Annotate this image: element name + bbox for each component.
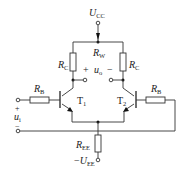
circuit-diagram: UCC RW RC RC + uo − T1 T2 RB + ui — [0, 0, 187, 176]
rb-right-resistor — [146, 97, 165, 103]
output-plus: + — [83, 64, 89, 75]
rb-left-resistor — [30, 97, 49, 103]
output-terminal-left — [83, 78, 87, 82]
rb-left-label: RB — [33, 83, 45, 95]
t1-label: T1 — [77, 95, 86, 107]
rc-left-label: RC — [57, 59, 68, 71]
rc-right-resistor — [120, 53, 126, 71]
uee-terminal — [96, 158, 100, 162]
pot-wiper-arrow-icon — [96, 33, 100, 40]
input-terminal-top — [16, 98, 20, 102]
uee-label: −UEE — [74, 155, 95, 167]
output-minus: − — [107, 64, 113, 75]
ree-label: REE — [75, 139, 90, 151]
ucc-label: UCC — [89, 7, 105, 19]
output-label: uo — [94, 64, 102, 76]
output-terminal-right — [109, 78, 113, 82]
circuit-svg: UCC RW RC RC + uo − T1 T2 RB + ui — [0, 0, 187, 176]
ree-resistor — [95, 135, 101, 152]
rw-label: RW — [92, 47, 106, 59]
rb-right-label: RB — [150, 83, 162, 95]
t2-label: T2 — [117, 95, 126, 107]
rc-right-label: RC — [128, 59, 139, 71]
rc-left-resistor — [70, 53, 76, 71]
ucc-terminal — [96, 21, 100, 25]
input-terminal-bottom — [16, 129, 20, 133]
